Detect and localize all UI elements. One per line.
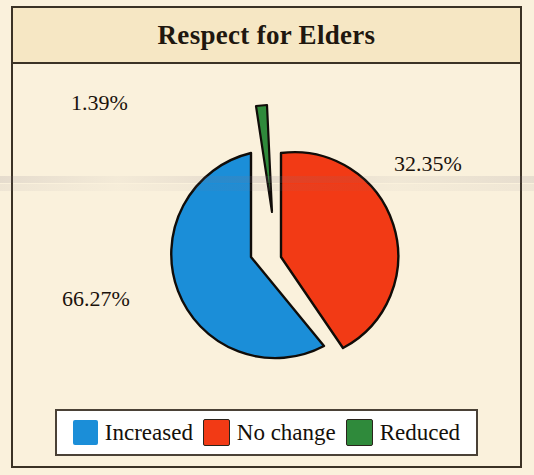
data-label-reduced: 1.39% — [71, 90, 128, 116]
chart-figure: Respect for Elders 1.39% 32.35% 66.27% I… — [0, 0, 534, 475]
legend-label-increased: Increased — [105, 420, 193, 446]
page-title: Respect for Elders — [158, 20, 376, 51]
pie-slice-reduced[interactable] — [256, 105, 272, 212]
legend-swatch-no-change — [203, 419, 230, 446]
data-label-no-change: 32.35% — [394, 151, 462, 177]
legend-item-no-change[interactable]: No change — [203, 419, 336, 446]
pie-chart — [13, 64, 520, 466]
legend-swatch-reduced — [346, 419, 373, 446]
legend-label-reduced: Reduced — [380, 420, 460, 446]
chart-title-band: Respect for Elders — [11, 6, 522, 64]
legend-item-reduced[interactable]: Reduced — [346, 419, 460, 446]
plot-area: 1.39% 32.35% 66.27% Increased No change … — [13, 64, 520, 466]
legend-swatch-increased — [73, 420, 98, 445]
legend-label-no-change: No change — [237, 420, 336, 446]
data-label-increased: 66.27% — [62, 286, 130, 312]
chart-legend: Increased No change Reduced — [55, 409, 478, 456]
legend-item-increased[interactable]: Increased — [73, 420, 193, 446]
